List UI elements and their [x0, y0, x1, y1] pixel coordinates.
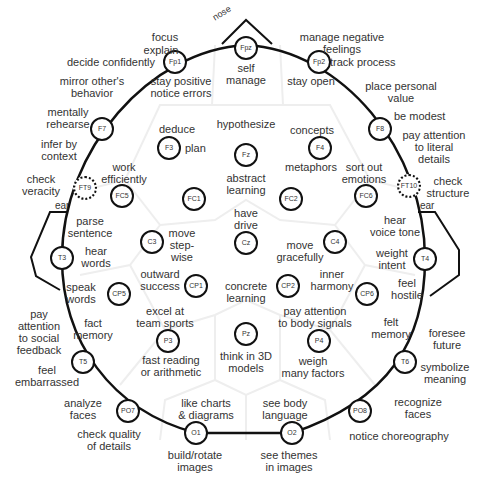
function-label-line: abstract [226, 172, 265, 184]
function-label-line: see themes [261, 449, 318, 461]
function-label-line: move [169, 227, 196, 239]
function-label-line: sort out [342, 161, 387, 173]
function-label: mentallyrehearse [46, 106, 89, 130]
function-label: parsesentence [68, 215, 113, 239]
function-label: feelembarrassed [15, 364, 79, 388]
electrode-po8: PO8 [348, 399, 372, 423]
function-label-line: intent [376, 259, 408, 271]
electrode-cp6: CP6 [355, 282, 379, 306]
function-label: think in 3Dmodels [220, 350, 272, 374]
function-label-line: harmony [311, 280, 354, 292]
function-label: recognizefaces [394, 396, 442, 420]
electrode-fc2: FC2 [279, 187, 303, 211]
electrode-f8: F8 [368, 117, 392, 141]
electrode-c4: C4 [323, 230, 347, 254]
function-label-line: place personal [365, 80, 437, 92]
function-label-line: see body [262, 397, 307, 409]
electrode-fc5: FC5 [110, 184, 134, 208]
function-label-line: gracefully [276, 251, 323, 263]
function-label: manage negativefeelings [300, 31, 384, 55]
function-label-line: metaphors [285, 161, 337, 173]
electrode-cp5: CP5 [107, 282, 131, 306]
function-label: deduce [159, 123, 195, 135]
function-label: havedrive [234, 207, 258, 231]
function-label: abstractlearning [226, 172, 265, 196]
function-label: infer bycontext [41, 138, 77, 162]
function-label-line: language [262, 409, 307, 421]
function-label-line: weight [376, 247, 408, 259]
function-label-line: step- [169, 239, 196, 251]
function-label-line: analyze [64, 397, 102, 409]
function-label-line: team sports [136, 317, 193, 329]
function-label-line: meaning [421, 373, 470, 385]
function-label-line: hostile [391, 289, 423, 301]
function-label-line: deduce [159, 123, 195, 135]
function-label-line: move [276, 239, 323, 251]
function-label-line: notice errors [150, 87, 211, 99]
electrode-o2: O2 [280, 421, 304, 445]
function-label-line: models [220, 362, 272, 374]
function-label-line: in images [261, 461, 318, 473]
function-label-line: faces [64, 409, 102, 421]
function-label: pay attentionto literaldetails [403, 129, 466, 165]
function-label-line: check [427, 175, 470, 187]
electrode-t3: T3 [50, 246, 74, 270]
function-label-line: or arithmetic [141, 366, 202, 378]
function-label: checkstructure [427, 175, 470, 199]
function-label: track process [330, 56, 395, 68]
function-label-line: manage negative [300, 31, 384, 43]
function-label: sort outemotions [342, 161, 387, 185]
function-label-line: veracity [22, 185, 60, 197]
function-label: build/rotateimages [168, 449, 222, 473]
function-label-line: notice choreography [349, 430, 449, 442]
function-label: factmemory [73, 317, 113, 341]
function-label-line: foresee [429, 327, 466, 339]
electrode-t4: T4 [413, 247, 437, 271]
function-label-line: feelings [300, 43, 384, 55]
function-label-line: future [429, 339, 466, 351]
function-label: plan [185, 142, 206, 154]
function-label-line: track process [330, 56, 395, 68]
function-label-line: outward [140, 268, 180, 280]
function-label: weighmany factors [282, 355, 345, 379]
function-label-line: memory [73, 329, 113, 341]
function-label: notice choreography [349, 430, 449, 442]
function-label-line: recognize [394, 396, 442, 408]
electrode-p3: P3 [156, 329, 180, 353]
function-label-line: pay attention [278, 305, 351, 317]
function-label: workefficiently [101, 161, 147, 185]
function-label-line: feel [391, 277, 423, 289]
function-label: foreseefuture [429, 327, 466, 351]
function-label: hypothesize [217, 118, 276, 130]
function-label: excel atteam sports [136, 305, 193, 329]
electrode-f7: F7 [90, 117, 114, 141]
function-label: place personalvalue [365, 80, 437, 104]
function-label-line: self [226, 62, 266, 74]
function-label-line: efficiently [101, 173, 147, 185]
function-label: check qualityof details [77, 428, 141, 452]
function-label-line: focus [152, 31, 178, 43]
function-label-line: think in 3D [220, 350, 272, 362]
function-label-line: & diagrams [178, 409, 234, 421]
electrode-ft9: FT9 [73, 176, 97, 200]
electrode-cp2: CP2 [276, 274, 300, 298]
function-label-line: behavior [60, 87, 124, 99]
function-label-line: fast reading [141, 354, 202, 366]
function-label: like charts& diagrams [178, 397, 234, 421]
function-label-line: like charts [178, 397, 234, 409]
electrode-p4: P4 [307, 329, 331, 353]
function-label: movegracefully [276, 239, 323, 263]
function-label-line: felt [371, 316, 411, 328]
function-label-line: feel [15, 364, 79, 376]
function-label: checkveracity [22, 173, 60, 197]
electrode-o1: O1 [184, 421, 208, 445]
electrode-fc6: FC6 [354, 184, 378, 208]
function-label-line: to literal [403, 141, 466, 153]
function-label: innerharmony [311, 268, 354, 292]
function-label-line: many factors [282, 367, 345, 379]
function-label: hearvoice tone [370, 214, 420, 238]
function-label-line: learning [225, 292, 267, 304]
function-label-line: plan [185, 142, 206, 154]
function-label-line: wise [169, 251, 196, 263]
function-label: see bodylanguage [262, 397, 307, 421]
